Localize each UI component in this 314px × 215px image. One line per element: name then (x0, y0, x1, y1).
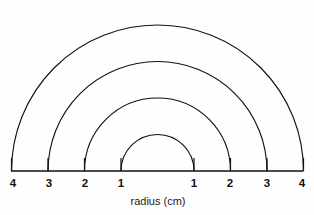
axis-tick-label-plus1: 1 (191, 177, 198, 189)
axis-tick-label-minus2: 2 (82, 177, 88, 189)
axis-tick-label-minus4: 4 (10, 177, 17, 189)
axis-tick-group (12, 158, 304, 171)
axis-tick-label-plus4: 4 (299, 177, 306, 189)
axis-label: radius (cm) (130, 195, 185, 207)
semicircle-radius-diagram: 4 3 2 1 1 2 3 4 radius (cm) (0, 0, 314, 215)
axis-tick-label-group: 4 3 2 1 1 2 3 4 (10, 177, 306, 189)
axis-tick-label-plus3: 3 (264, 177, 270, 189)
axis-tick-label-minus1: 1 (118, 177, 125, 189)
arc-r1-path (121, 135, 194, 171)
arc-r3-path (48, 61, 267, 171)
axis-tick-label-minus3: 3 (46, 177, 52, 189)
axis-tick-label-plus2: 2 (227, 177, 233, 189)
figure-container: 4 3 2 1 1 2 3 4 radius (cm) (0, 0, 314, 215)
arc-group (12, 25, 304, 171)
